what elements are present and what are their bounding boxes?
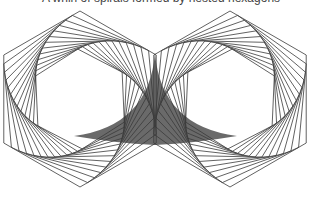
right-hexagon-spiral <box>154 11 306 187</box>
nested-hexagon <box>4 15 156 182</box>
nested-hexagon <box>4 11 156 187</box>
whirl-hexagon-figure <box>0 0 322 198</box>
left-hexagon-spiral <box>4 11 156 187</box>
nested-hexagon <box>8 31 152 167</box>
nested-hexagon <box>154 15 306 182</box>
nested-hexagon <box>171 42 289 157</box>
nested-hexagon <box>154 11 306 187</box>
nested-hexagon <box>21 42 139 157</box>
nested-hexagon <box>158 31 302 167</box>
shaded-region <box>74 53 237 145</box>
